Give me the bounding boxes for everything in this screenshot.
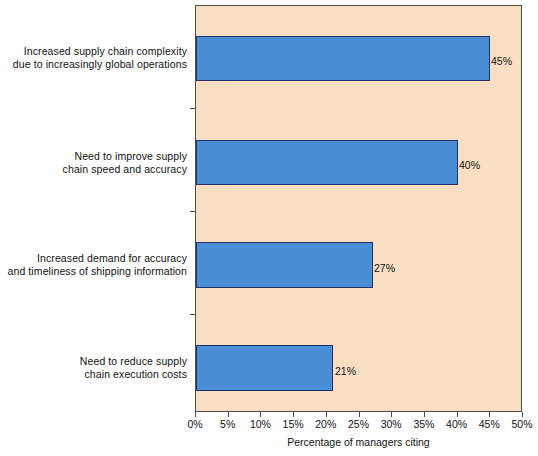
x-tick-mark-10 (522, 412, 523, 417)
y-tick-0 (190, 108, 195, 109)
bar-chart: Increased supply chain complexity due to… (0, 0, 538, 456)
bar-value-2: 27% (374, 262, 395, 274)
category-label-1: Need to improve supply chain speed and a… (1, 150, 187, 176)
category-label-3-line-0: Need to reduce supply (1, 355, 187, 368)
bar-value-3: 21% (335, 365, 356, 377)
x-tick-mark-4 (326, 412, 327, 417)
x-tick-mark-3 (293, 412, 294, 417)
category-label-3: Need to reduce supply chain execution co… (1, 355, 187, 381)
x-tick-label-10: 50% (502, 418, 538, 430)
bar-value-0: 45% (491, 55, 512, 67)
y-tick-1 (190, 211, 195, 212)
bar-1 (196, 140, 458, 185)
bar-2 (196, 242, 373, 288)
category-label-3-line-1: chain execution costs (1, 368, 187, 381)
x-tick-mark-6 (391, 412, 392, 417)
x-tick-mark-7 (424, 412, 425, 417)
y-tick-2 (190, 314, 195, 315)
x-tick-mark-9 (489, 412, 490, 417)
x-tick-mark-5 (359, 412, 360, 417)
category-label-0-line-1: due to increasingly global operations (1, 58, 187, 71)
category-label-2-line-1: and timeliness of shipping information (1, 265, 187, 278)
category-axis-labels: Increased supply chain complexity due to… (0, 0, 192, 412)
category-label-2: Increased demand for accuracy and timeli… (1, 252, 187, 278)
bar-3 (196, 345, 333, 391)
bar-0 (196, 36, 490, 81)
category-label-2-line-0: Increased demand for accuracy (1, 252, 187, 265)
category-label-1-line-1: chain speed and accuracy (1, 163, 187, 176)
x-axis-title: Percentage of managers citing (195, 436, 522, 449)
plot-area (195, 5, 522, 412)
category-label-0: Increased supply chain complexity due to… (1, 45, 187, 71)
x-tick-mark-1 (228, 412, 229, 417)
category-label-0-line-0: Increased supply chain complexity (1, 45, 187, 58)
x-tick-mark-2 (260, 412, 261, 417)
bar-value-1: 40% (459, 159, 480, 171)
category-label-1-line-0: Need to improve supply (1, 150, 187, 163)
x-tick-mark-8 (457, 412, 458, 417)
x-tick-mark-0 (195, 412, 196, 417)
